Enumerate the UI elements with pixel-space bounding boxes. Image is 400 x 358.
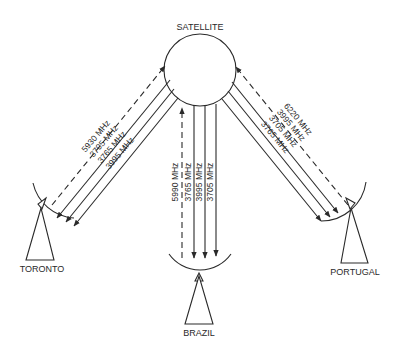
toronto-downlink-line-3	[74, 98, 178, 226]
brazil-station: BRAZIL	[169, 254, 231, 338]
portugal-label: PORTUGAL	[330, 267, 379, 277]
satellite-link-diagram: SATELLITE 5930 MHz 3705 MHz 3765 MHz 399…	[0, 0, 400, 358]
toronto-label: TORONTO	[20, 264, 65, 274]
brazil-label: BRAZIL	[183, 328, 215, 338]
toronto-station: TORONTO	[20, 183, 74, 274]
brazil-uplink-label: 5990 MHz	[170, 163, 180, 202]
satellite-circle	[164, 34, 236, 106]
satellite: SATELLITE	[164, 22, 236, 106]
toronto-feed	[38, 198, 46, 209]
satellite-label: SATELLITE	[177, 22, 224, 32]
brazil-downlink-label-3: 3705 MHz	[205, 163, 215, 202]
brazil-tower	[185, 276, 213, 324]
portugal-station: PORTUGAL	[321, 182, 380, 277]
portugal-beams: 6220 MHz 3995 MHz 3705 MHz 3765 MHz	[222, 67, 348, 221]
toronto-tower	[26, 208, 54, 260]
portugal-tower	[341, 208, 368, 263]
toronto-beams: 5930 MHz 3705 MHz 3765 MHz 3995 MHz	[52, 66, 178, 226]
brazil-downlink-label-2: 3995 MHz	[194, 163, 204, 202]
brazil-downlink-label-1: 3765 MHz	[183, 163, 193, 202]
portugal-dish	[321, 182, 366, 221]
brazil-beams: 5990 MHz 3765 MHz 3995 MHz 3705 MHz	[170, 104, 216, 258]
brazil-dish	[169, 254, 231, 270]
